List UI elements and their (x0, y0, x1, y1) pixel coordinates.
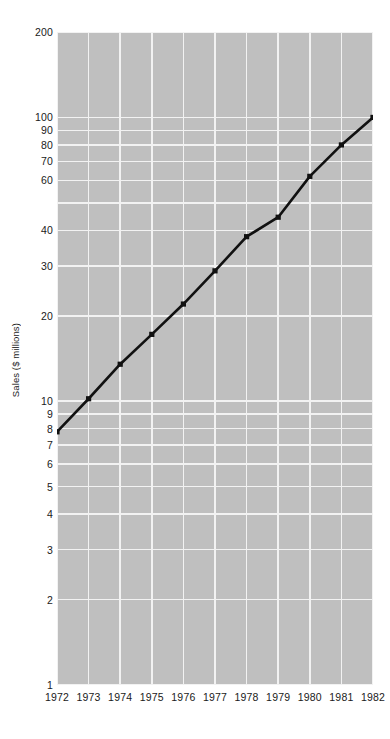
y-tick-label: 30 (17, 260, 57, 272)
plot-area (57, 32, 373, 685)
y-tick-label: 5 (17, 481, 57, 493)
data-point-marker (339, 142, 344, 147)
y-tick-label: 6 (17, 458, 57, 470)
series-line (57, 117, 373, 431)
y-axis-tick-labels: 2001009080706040302010987654321 (10, 0, 57, 739)
y-tick-label: 3 (17, 544, 57, 556)
data-point-marker (57, 429, 60, 434)
y-tick-label: 200 (17, 26, 57, 38)
y-tick-label: 40 (17, 224, 57, 236)
y-tick-label: 70 (17, 155, 57, 167)
data-point-marker (307, 174, 312, 179)
y-tick-label: 9 (17, 408, 57, 420)
x-axis-tick-labels: 1972197319741975197619771978197919801981… (0, 691, 390, 711)
data-point-marker (86, 396, 91, 401)
y-tick-label: 4 (17, 508, 57, 520)
x-tick-label: 1982 (351, 691, 390, 703)
data-point-marker (212, 268, 217, 273)
data-point-marker (276, 215, 281, 220)
y-tick-label: 10 (17, 395, 57, 407)
y-tick-label: 7 (17, 439, 57, 451)
data-series-sales (57, 32, 373, 685)
y-tick-label: 100 (17, 111, 57, 123)
data-point-marker (370, 115, 373, 120)
y-tick-label: 60 (17, 174, 57, 186)
data-point-marker (244, 234, 249, 239)
data-point-marker (181, 301, 186, 306)
y-tick-label: 20 (17, 310, 57, 322)
y-tick-label: 1 (17, 679, 57, 691)
sales-log-line-chart: Sales ($ millions) 200100908070604030201… (0, 0, 390, 739)
y-tick-label: 2 (17, 594, 57, 606)
y-tick-label: 80 (17, 139, 57, 151)
y-tick-label: 8 (17, 423, 57, 435)
series-markers (57, 115, 373, 435)
data-point-marker (118, 362, 123, 367)
y-tick-label: 90 (17, 124, 57, 136)
data-point-marker (149, 332, 154, 337)
